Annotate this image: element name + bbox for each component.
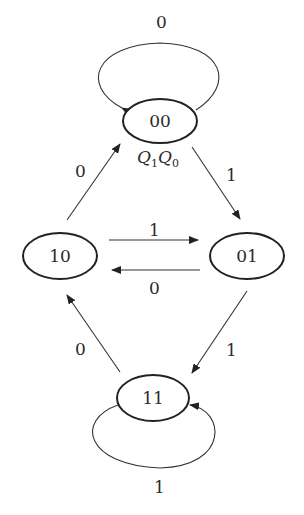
transition-01-to-11: 1 [192, 291, 247, 373]
transition-label: 1 [226, 165, 237, 185]
state-label: 10 [49, 246, 71, 266]
state-01: 01 [210, 233, 284, 279]
transition-00-to-00: 0 [98, 12, 218, 110]
transition-11-to-10: 0 [67, 295, 120, 372]
transition-label: 1 [226, 340, 237, 360]
transition-label: 0 [75, 161, 86, 181]
transition-10-to-01: 1 [109, 220, 198, 240]
transition-label: 1 [154, 477, 165, 497]
state-label: 11 [142, 388, 164, 408]
transition-label: 0 [156, 12, 167, 32]
state-label: 01 [236, 246, 258, 266]
transition-label: 0 [149, 278, 160, 298]
state-11: 11 [117, 375, 189, 421]
transition-label: 0 [75, 339, 86, 359]
transition-01-to-10: 0 [112, 270, 200, 298]
state-00: 00 [123, 99, 197, 143]
state-label: 00 [149, 111, 171, 131]
state-variable-label: Q1Q0 [137, 147, 179, 170]
state-diagram: 0 1 0 1 0 1 0 1 00 Q1Q0 [0, 0, 304, 515]
state-10: 10 [23, 233, 97, 279]
transition-10-to-00: 0 [67, 144, 120, 220]
transition-label: 1 [149, 220, 160, 240]
transition-00-to-01: 1 [192, 147, 240, 219]
